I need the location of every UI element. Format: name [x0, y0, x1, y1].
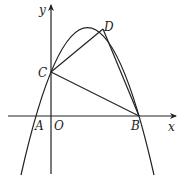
point-label-b: B	[130, 119, 140, 133]
parabola-curve	[21, 28, 154, 175]
geometry-figure: y x D C A O B	[0, 0, 180, 182]
point-label-c: C	[38, 66, 47, 80]
segment-db	[103, 29, 139, 116]
point-label-d: D	[103, 20, 114, 34]
origin-label: O	[54, 119, 64, 133]
segment-cb	[51, 72, 139, 116]
y-axis-label: y	[38, 3, 46, 17]
point-label-a: A	[34, 119, 44, 133]
segment-cd	[51, 29, 103, 72]
x-axis-label: x	[168, 120, 175, 134]
